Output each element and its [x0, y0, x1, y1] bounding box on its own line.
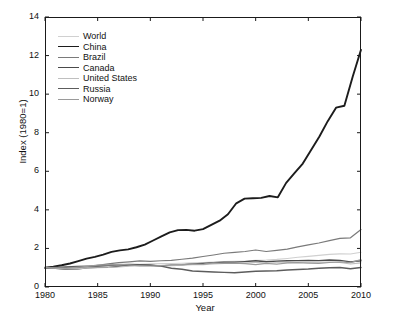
x-tick-label: 1990 [130, 291, 170, 300]
legend-swatch [58, 67, 79, 68]
y-tick-label: 2 [9, 243, 39, 252]
x-tick-label: 1985 [78, 291, 118, 300]
legend-item-canada: Canada [58, 63, 173, 74]
x-tick-label: 2010 [341, 291, 381, 300]
legend-swatch [58, 57, 79, 58]
legend-item-norway: Norway [58, 94, 173, 105]
legend-swatch [58, 46, 79, 47]
y-axis-title: Index (1980=1) [17, 62, 28, 202]
legend-item-world: World [58, 31, 173, 42]
legend-label: Canada [83, 63, 115, 74]
x-tick-label: 2005 [288, 291, 328, 300]
legend-label: United States [83, 73, 137, 84]
y-tick-label: 4 [9, 205, 39, 214]
legend-swatch [58, 88, 79, 89]
x-tick-label: 1995 [183, 291, 223, 300]
legend-item-russia: Russia [58, 84, 173, 95]
x-tick-label: 1980 [25, 291, 65, 300]
x-axis-title: Year [145, 302, 265, 313]
legend-item-united-states: United States [58, 73, 173, 84]
legend-label: World [83, 31, 106, 42]
y-tick-label: 14 [9, 12, 39, 21]
legend-item-brazil: Brazil [58, 52, 173, 63]
legend-item-china: China [58, 42, 173, 53]
legend-label: China [83, 42, 107, 53]
chart-figure: 02468101214 1980198519901995200020052010… [0, 0, 409, 320]
chart-legend: WorldChinaBrazilCanadaUnited StatesRussi… [58, 31, 173, 105]
x-tick-label: 2000 [236, 291, 276, 300]
legend-label: Norway [83, 94, 114, 105]
legend-swatch [58, 78, 79, 79]
legend-swatch [58, 36, 79, 37]
legend-swatch [58, 99, 79, 100]
y-tick-label: 12 [9, 51, 39, 60]
legend-label: Brazil [83, 52, 106, 63]
legend-label: Russia [83, 84, 111, 95]
